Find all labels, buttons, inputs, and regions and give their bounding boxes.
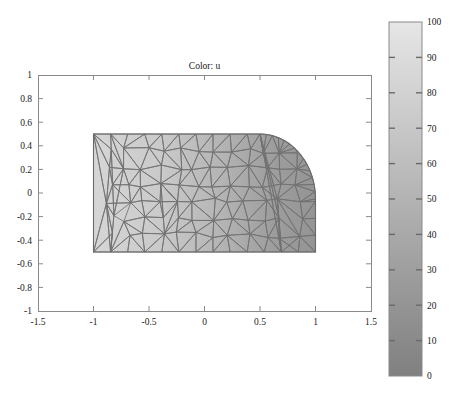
colorbar-tick-label: 20 (427, 301, 437, 311)
pde-solution-figure: -1.5-1-0.500.511.5 -1-0.8-0.6-0.4-0.200.… (0, 0, 457, 397)
x-tick-label: 1.5 (365, 317, 377, 327)
x-tick-label: 0 (202, 317, 207, 327)
x-tick-label: 1 (313, 317, 318, 327)
y-tick-label: 0 (27, 188, 32, 198)
colorbar-tick-label: 60 (427, 159, 437, 169)
colorbar-tick-label: 40 (427, 230, 437, 240)
colorbar-tick-label: 70 (427, 124, 437, 134)
colorbar-tick-label: 10 (427, 336, 437, 346)
x-tick-label: -1.5 (30, 317, 45, 327)
x-tick-label: -0.5 (141, 317, 156, 327)
y-tick-label: 0.8 (20, 94, 32, 104)
x-tick-label: 0.5 (254, 317, 266, 327)
colorbar-tick-label: 100 (427, 17, 442, 27)
colorbar-tick-label: 50 (427, 194, 437, 204)
y-tick-label: -0.6 (17, 259, 32, 269)
plot-title: Color: u (189, 61, 221, 71)
colorbar-tick-label: 30 (427, 265, 437, 275)
y-tick-label: 0.2 (20, 165, 32, 175)
y-tick-label: -0.8 (17, 283, 32, 293)
y-tick-label: -0.2 (17, 212, 32, 222)
colorbar-tick-label: 90 (427, 53, 437, 63)
y-tick-label: 1 (27, 70, 32, 80)
y-tick-label: -1 (24, 306, 32, 316)
y-tick-label: 0.6 (20, 118, 32, 128)
x-tick-label: -1 (90, 317, 98, 327)
colorbar-tick-label: 0 (427, 371, 432, 381)
colorbar-tick-label: 80 (427, 88, 437, 98)
y-tick-label: 0.4 (20, 141, 32, 151)
y-tick-label: -0.4 (17, 236, 32, 246)
